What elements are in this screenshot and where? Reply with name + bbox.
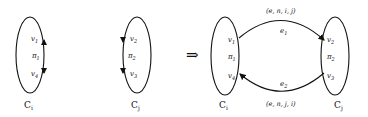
vertex-v2: v2 — [130, 35, 137, 44]
vertex-pi2: π2 — [127, 52, 136, 61]
vertex-pi2: π2 — [326, 53, 335, 62]
vertex-v1: v1 — [228, 36, 235, 45]
vertex-v4: v4 — [228, 72, 235, 81]
edge-e2: e2 (e, n, j, i) — [240, 73, 324, 108]
vertex-v1: v1 — [31, 35, 38, 44]
cluster-ci-left: v1 π1 v4 Ci — [16, 17, 44, 111]
cluster-label-cj: Cj — [131, 100, 140, 112]
vertex-v2: v2 — [327, 36, 334, 45]
cluster-label-ci: Ci — [24, 100, 33, 111]
cluster-cj-left: v2 π2 v3 Cj — [123, 17, 151, 112]
implies-arrow-icon: ⇒ — [186, 46, 199, 64]
cluster-label-ci: Ci — [219, 100, 228, 111]
cluster-ci-right: v1 π1 v4 Ci — [211, 17, 239, 111]
cluster-label-cj: Cj — [334, 100, 343, 112]
edge-e2-label: e2 — [280, 80, 287, 89]
edge-e1-label: e1 — [280, 27, 287, 36]
vertex-v3: v3 — [130, 70, 137, 79]
edge-e1: (e, n, i, j) e1 — [239, 7, 324, 40]
edge-e1-tuple: (e, n, i, j) — [266, 7, 296, 15]
diagram-canvas: v1 π1 v4 Ci v2 π2 v3 Cj ⇒ v1 π1 v4 Ci v2… — [0, 0, 368, 117]
edge-e2-tuple: (e, n, j, i) — [266, 100, 296, 108]
vertex-pi1: π1 — [227, 53, 236, 62]
vertex-v3: v3 — [327, 72, 334, 81]
vertex-pi1: π1 — [31, 52, 40, 61]
cluster-cj-right: v2 π2 v3 Cj — [321, 17, 349, 112]
vertex-v4: v4 — [31, 70, 38, 79]
